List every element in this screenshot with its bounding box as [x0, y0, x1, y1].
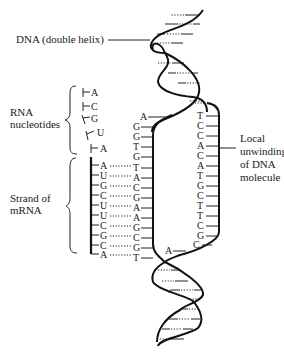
svg-text:A: A	[100, 143, 108, 154]
unwound-region	[153, 103, 219, 262]
template-strand-bases: G G T G T A C G A A G C G T	[133, 121, 153, 263]
svg-text:C: C	[91, 101, 98, 112]
svg-text:U: U	[97, 127, 105, 138]
svg-text:of DNA: of DNA	[240, 158, 276, 170]
svg-text:RNA: RNA	[10, 106, 33, 118]
svg-text:A: A	[100, 249, 108, 260]
svg-text:Local: Local	[240, 132, 265, 144]
coding-strand-bases: T C C A C A T G C T T C G C A	[165, 110, 219, 256]
rna-nucleotides-brace	[65, 86, 77, 154]
svg-text:C: C	[193, 239, 200, 250]
svg-text:molecule: molecule	[240, 171, 280, 183]
rna-nucleotides-label: RNA nucleotides	[10, 106, 60, 130]
coding-bottom-base: A	[165, 245, 173, 256]
mrna-brace	[66, 158, 77, 253]
free-rna-nucleotides: A C G U A	[82, 87, 108, 154]
mrna-strand: A U G C U U C G C A	[91, 157, 131, 260]
bottom-helix	[152, 262, 203, 346]
template-overhang-base: A	[140, 111, 148, 122]
svg-text:mRNA: mRNA	[10, 204, 42, 216]
transcription-diagram: DNA (double helix) A G G T G T A C G A A…	[0, 0, 284, 352]
svg-text:A: A	[91, 87, 99, 98]
dna-double-helix-label: DNA (double helix)	[16, 33, 104, 46]
mrna-label: Strand of mRNA	[10, 192, 51, 216]
svg-text:G: G	[133, 151, 140, 162]
svg-text:G: G	[91, 113, 98, 124]
local-unwinding-label: Local unwinding of DNA molecule	[240, 132, 284, 183]
svg-text:Strand of: Strand of	[10, 192, 51, 204]
svg-text:unwinding: unwinding	[240, 145, 284, 157]
svg-text:nucleotides: nucleotides	[10, 118, 60, 130]
svg-text:T: T	[133, 252, 139, 263]
